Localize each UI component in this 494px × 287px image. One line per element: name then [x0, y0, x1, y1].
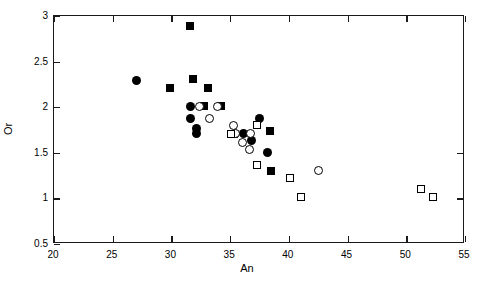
y-tick-right [457, 198, 463, 199]
y-tick-label: 1.5 [20, 146, 48, 157]
x-tick-top [171, 16, 172, 22]
data-point-filled-square [189, 75, 197, 83]
data-point-filled-square [186, 22, 194, 30]
x-tick-label: 50 [400, 249, 411, 260]
data-point-filled-square [267, 167, 275, 175]
data-point-open-square [417, 185, 425, 193]
data-point-filled-square [266, 127, 274, 135]
y-tick-label: 1 [20, 192, 48, 203]
x-tick-top [289, 16, 290, 22]
data-point-open-square [286, 174, 294, 182]
x-tick-top [406, 16, 407, 22]
x-tick-top [348, 16, 349, 22]
data-point-filled-circle [186, 102, 195, 111]
x-tick-label: 55 [458, 249, 469, 260]
y-axis-title: Or [2, 123, 14, 135]
x-tick-label: 25 [106, 249, 117, 260]
data-point-filled-circle [132, 76, 141, 85]
x-tick-top [113, 16, 114, 22]
data-point-open-square [227, 130, 235, 138]
data-point-open-circle [246, 129, 255, 138]
y-tick-right [457, 153, 463, 154]
data-point-open-circle [314, 166, 323, 175]
data-point-filled-square [204, 84, 212, 92]
x-tick-label: 20 [47, 249, 58, 260]
x-tick-top [230, 16, 231, 22]
y-tick [54, 16, 60, 17]
scatter-chart-figure: 2025303540455055 0.511.522.53 An Or [0, 0, 494, 287]
data-point-open-square [297, 193, 305, 201]
data-point-open-square [429, 193, 437, 201]
x-tick [348, 236, 349, 242]
x-tick-top [465, 16, 466, 22]
y-tick-label: 0.5 [20, 238, 48, 249]
y-tick-label: 2 [20, 101, 48, 112]
data-point-open-square [253, 121, 261, 129]
y-tick-label: 2.5 [20, 55, 48, 66]
x-tick [465, 236, 466, 242]
y-tick [54, 153, 60, 154]
data-point-open-circle [213, 102, 222, 111]
x-tick [230, 236, 231, 242]
y-tick [54, 62, 60, 63]
x-tick [406, 236, 407, 242]
y-tick [54, 198, 60, 199]
x-tick-label: 40 [282, 249, 293, 260]
x-axis-title: An [0, 262, 494, 274]
x-tick [171, 236, 172, 242]
data-point-filled-square [166, 84, 174, 92]
y-tick [54, 244, 60, 245]
y-tick [54, 107, 60, 108]
x-tick [289, 236, 290, 242]
x-tick-label: 35 [224, 249, 235, 260]
data-point-open-square [253, 161, 261, 169]
x-tick [54, 236, 55, 242]
x-tick-label: 45 [341, 249, 352, 260]
data-point-open-circle [195, 102, 204, 111]
y-tick-label: 3 [20, 10, 48, 21]
x-tick [113, 236, 114, 242]
data-point-filled-circle [192, 129, 201, 138]
x-tick-label: 30 [165, 249, 176, 260]
